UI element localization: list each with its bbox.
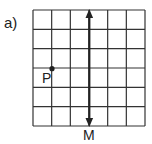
grid-diagram — [0, 0, 152, 144]
line-label: M — [83, 127, 95, 143]
point-label: P — [42, 70, 51, 86]
